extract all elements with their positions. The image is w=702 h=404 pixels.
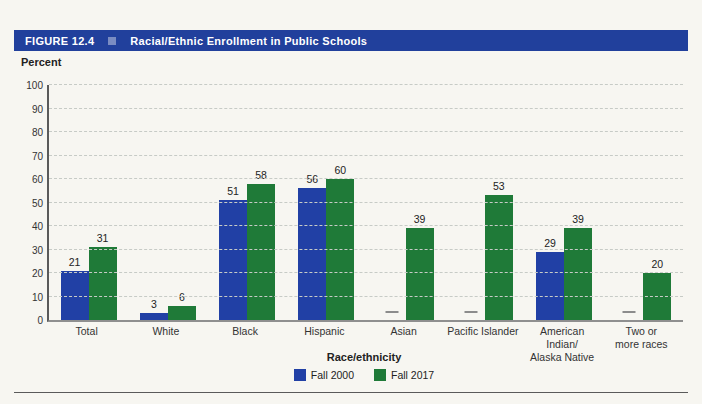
legend-label: Fall 2000 [311,369,354,381]
bar-value-label: 6 [179,291,185,303]
legend-swatch-fall-2000 [294,369,306,381]
slot-fall-2000-asian [378,85,406,320]
slot-fall-2000-total: 21 [61,85,89,320]
slot-fall-2017-black: 58 [247,85,275,320]
y-tick-60: 60 [11,174,43,185]
y-tick-10: 10 [11,291,43,302]
bar-fall-2000-white: 3 [140,313,168,320]
bar-fall-2017-pacific-islander: 53 [485,195,513,320]
legend-item-fall-2017: Fall 2017 [374,369,434,381]
gridline-10 [49,296,683,297]
bar-group-two-or-more-races: 20 [604,85,683,320]
y-tick-20: 20 [11,268,43,279]
bar-group-total: 2131 [49,85,128,320]
missing-data-dash [385,311,398,313]
bar-group-american-indian-alaska-native: 2939 [525,85,604,320]
slot-fall-2017-two-or-more-races: 20 [643,85,671,320]
gridline-20 [49,272,683,273]
gridline-100 [49,84,683,85]
legend-swatch-fall-2017 [374,369,386,381]
y-tick-80: 80 [11,127,43,138]
plot-area: 213136515856603953293920 010203040506070… [47,85,683,322]
figure-header: FIGURE 12.4 Racial/Ethnic Enrollment in … [14,30,688,51]
missing-data-dash [464,311,477,313]
bar-value-label: 51 [227,185,239,197]
bar-value-label: 53 [493,180,505,192]
gridline-50 [49,202,683,203]
bar-group-hispanic: 5660 [287,85,366,320]
y-tick-0: 0 [11,315,43,326]
y-tick-30: 30 [11,244,43,255]
bottom-rule [14,392,688,393]
gridline-80 [49,131,683,132]
bar-value-label: 29 [544,237,556,249]
bar-groups: 213136515856603953293920 [49,85,683,320]
bar-fall-2000-hispanic: 56 [298,188,326,320]
bar-value-label: 39 [572,213,584,225]
slot-fall-2017-asian: 39 [406,85,434,320]
slot-fall-2017-white: 6 [168,85,196,320]
bar-fall-2000-black: 51 [219,200,247,320]
slot-fall-2000-two-or-more-races [615,85,643,320]
legend: Fall 2000Fall 2017 [47,369,681,381]
bar-value-label: 3 [151,298,157,310]
legend-label: Fall 2017 [391,369,434,381]
figure-page: FIGURE 12.4 Racial/Ethnic Enrollment in … [0,0,702,404]
bar-value-label: 56 [307,173,319,185]
figure-number: FIGURE 12.4 [25,35,94,47]
bar-value-label: 31 [97,232,109,244]
y-tick-70: 70 [11,150,43,161]
bar-value-label: 21 [69,256,81,268]
bar-value-label: 60 [335,164,347,176]
slot-fall-2017-total: 31 [89,85,117,320]
slot-fall-2017-pacific-islander: 53 [485,85,513,320]
x-axis-title: Race/ethnicity [47,351,681,363]
slot-fall-2017-american-indian-alaska-native: 39 [564,85,592,320]
slot-fall-2000-white: 3 [140,85,168,320]
bar-fall-2017-total: 31 [89,247,117,320]
slot-fall-2000-american-indian-alaska-native: 29 [536,85,564,320]
y-tick-90: 90 [11,103,43,114]
bar-group-pacific-islander: 53 [445,85,524,320]
slot-fall-2017-hispanic: 60 [326,85,354,320]
bar-fall-2000-american-indian-alaska-native: 29 [536,252,564,320]
gridline-70 [49,155,683,156]
bar-value-label: 20 [652,258,664,270]
header-square-icon [108,37,116,45]
y-tick-50: 50 [11,197,43,208]
bar-fall-2017-asian: 39 [406,228,434,320]
bar-group-asian: 39 [366,85,445,320]
figure-title: Racial/Ethnic Enrollment in Public Schoo… [130,35,367,47]
legend-item-fall-2000: Fall 2000 [294,369,354,381]
y-tick-40: 40 [11,221,43,232]
gridline-30 [49,249,683,250]
bar-fall-2017-white: 6 [168,306,196,320]
bar-fall-2017-black: 58 [247,184,275,320]
y-axis-title: Percent [21,56,61,68]
slot-fall-2000-pacific-islander [457,85,485,320]
gridline-60 [49,178,683,179]
bar-fall-2017-two-or-more-races: 20 [643,273,671,320]
gridline-90 [49,108,683,109]
missing-data-dash [623,311,636,313]
bar-value-label: 39 [414,213,426,225]
gridline-40 [49,225,683,226]
bar-group-black: 5158 [208,85,287,320]
bar-group-white: 36 [128,85,207,320]
slot-fall-2000-hispanic: 56 [298,85,326,320]
bar-fall-2017-hispanic: 60 [326,179,354,320]
slot-fall-2000-black: 51 [219,85,247,320]
y-tick-100: 100 [11,80,43,91]
bar-fall-2017-american-indian-alaska-native: 39 [564,228,592,320]
